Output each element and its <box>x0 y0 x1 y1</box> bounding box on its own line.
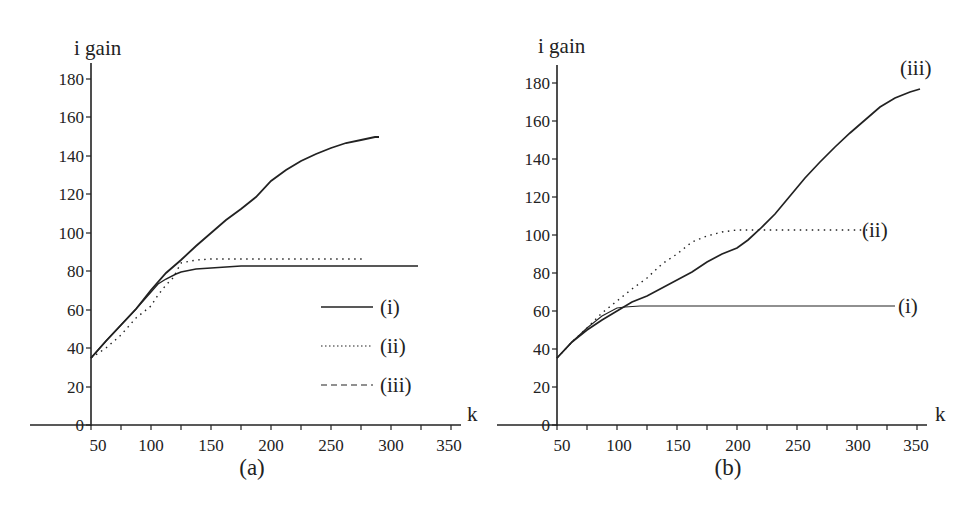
svg-text:150: 150 <box>198 436 224 455</box>
y-axis-title-a: i gain <box>74 36 122 60</box>
svg-text:20: 20 <box>533 378 550 397</box>
svg-text:180: 180 <box>525 74 551 93</box>
svg-text:80: 80 <box>533 264 550 283</box>
svg-text:120: 120 <box>59 185 85 204</box>
svg-text:60: 60 <box>67 301 84 320</box>
curve-label-i-b: (i) <box>898 294 918 318</box>
series-i-a <box>91 266 418 358</box>
svg-text:120: 120 <box>525 188 551 207</box>
legend-a: (i) (ii) (iii) <box>321 295 412 397</box>
chart-panel-b: i gain k 0 20 40 60 80 100 120 140 160 1… <box>497 34 946 480</box>
svg-text:300: 300 <box>845 436 871 455</box>
series-i-b <box>557 306 895 358</box>
legend-label-ii: (ii) <box>380 334 406 358</box>
x-axis-title-a: k <box>467 402 478 426</box>
legend-label-iii: (iii) <box>380 373 412 397</box>
svg-text:200: 200 <box>725 436 751 455</box>
svg-text:350: 350 <box>436 436 462 455</box>
y-tick-labels-b: 0 20 40 60 80 100 120 140 160 180 <box>525 74 551 435</box>
x-tick-labels-b: 50 100 150 200 250 300 350 <box>554 436 929 455</box>
series-ii-a <box>91 259 363 358</box>
svg-text:180: 180 <box>59 70 85 89</box>
chart-panel-a: i gain k 0 20 40 60 80 100 120 140 160 1… <box>30 36 478 480</box>
svg-text:150: 150 <box>665 436 691 455</box>
x-axis-title-b: k <box>935 402 946 426</box>
svg-text:250: 250 <box>785 436 811 455</box>
y-axis-title-b: i gain <box>538 34 586 58</box>
svg-text:100: 100 <box>525 226 551 245</box>
figure: i gain k 0 20 40 60 80 100 120 140 160 1… <box>0 0 980 508</box>
svg-text:140: 140 <box>525 150 551 169</box>
svg-text:40: 40 <box>533 340 550 359</box>
svg-text:100: 100 <box>606 436 632 455</box>
curve-label-iii-b: (iii) <box>900 56 932 80</box>
panel-label-b: (b) <box>715 455 742 480</box>
svg-text:0: 0 <box>542 416 551 435</box>
svg-text:40: 40 <box>67 339 84 358</box>
panel-label-a: (a) <box>239 455 265 480</box>
series-ii-b <box>557 230 871 358</box>
svg-text:140: 140 <box>59 147 85 166</box>
svg-text:160: 160 <box>525 112 551 131</box>
svg-text:350: 350 <box>903 436 929 455</box>
svg-text:80: 80 <box>67 262 84 281</box>
svg-text:50: 50 <box>90 436 107 455</box>
svg-text:200: 200 <box>258 436 284 455</box>
y-tick-labels-a: 0 20 40 60 80 100 120 140 160 180 <box>59 70 85 435</box>
curve-label-ii-b: (ii) <box>862 218 888 242</box>
svg-text:60: 60 <box>533 302 550 321</box>
svg-text:250: 250 <box>318 436 344 455</box>
svg-text:0: 0 <box>76 416 85 435</box>
svg-text:100: 100 <box>59 224 85 243</box>
svg-text:100: 100 <box>138 436 164 455</box>
svg-text:160: 160 <box>59 108 85 127</box>
svg-text:50: 50 <box>554 436 571 455</box>
series-iii-a <box>91 137 379 358</box>
svg-text:300: 300 <box>378 436 404 455</box>
svg-text:20: 20 <box>67 378 84 397</box>
legend-label-i: (i) <box>380 295 400 319</box>
x-tick-labels-a: 50 100 150 200 250 300 350 <box>90 436 462 455</box>
